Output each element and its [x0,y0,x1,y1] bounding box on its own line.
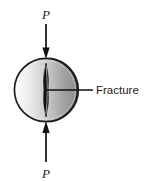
load-top-label: P [41,7,50,22]
load-bottom-arrowhead [42,121,49,133]
mechanics-diagram-svg: P P Fracture [0,0,147,181]
figure-container: P P Fracture [0,0,147,181]
load-top-arrowhead [42,48,49,60]
load-bottom-label: P [41,166,50,181]
fracture-callout-label: Fracture [96,84,139,96]
load-arrow-top [42,24,49,59]
load-arrow-bottom [42,121,49,162]
